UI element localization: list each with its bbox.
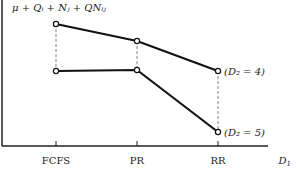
- series-d2-5-line: [56, 70, 218, 132]
- point-rr-lower: [215, 129, 220, 134]
- point-fcfs-lower: [53, 68, 58, 73]
- interaction-plot: μ + Qᵢ + Nⱼ + QNᵢⱼ (D₂ = 4) (D₂ = 5) FCF…: [0, 0, 301, 182]
- point-rr-upper: [215, 68, 220, 73]
- series-label-upper: (D₂ = 4): [224, 66, 265, 77]
- series-label-lower: (D₂ = 5): [224, 127, 265, 138]
- point-pr-lower: [134, 67, 139, 72]
- x-axis-label: D1: [278, 155, 292, 168]
- tick-label-rr: RR: [210, 155, 226, 166]
- y-axis-label: μ + Qᵢ + Nⱼ + QNᵢⱼ: [12, 2, 106, 13]
- tick-label-pr: PR: [130, 155, 145, 166]
- tick-label-fcfs: FCFS: [42, 155, 71, 166]
- point-pr-upper: [134, 38, 139, 43]
- point-fcfs-upper: [53, 21, 58, 26]
